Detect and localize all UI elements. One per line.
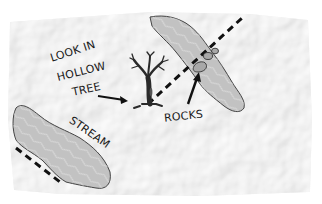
treasure-map: LOOK IN HOLLOW TREE ROCKS STREAM bbox=[0, 0, 322, 204]
